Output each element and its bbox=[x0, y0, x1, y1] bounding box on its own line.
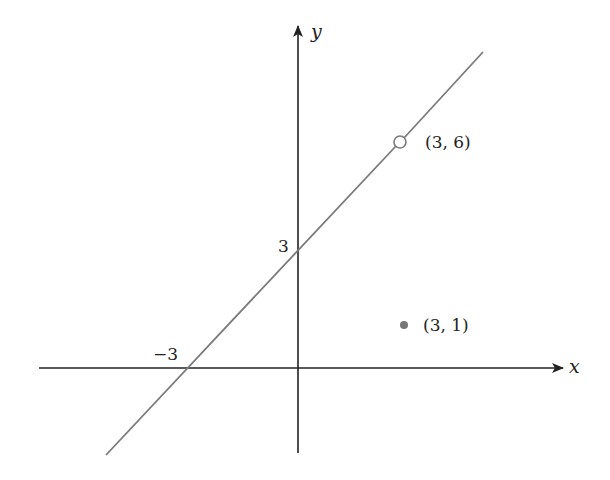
graph-line bbox=[106, 146, 396, 455]
open-point-label: (3, 6) bbox=[425, 132, 471, 152]
x-axis-label: x bbox=[569, 355, 580, 377]
filled-point-label: (3, 1) bbox=[423, 315, 469, 335]
x-intercept-label: −3 bbox=[153, 344, 178, 364]
graph: y x 3 −3 (3, 6) (3, 1) bbox=[0, 0, 610, 480]
open-point-marker bbox=[394, 136, 406, 148]
y-intercept-label: 3 bbox=[278, 236, 289, 256]
graph-line-upper bbox=[404, 52, 483, 138]
y-axis-label: y bbox=[310, 20, 322, 42]
filled-point-marker bbox=[400, 321, 408, 329]
